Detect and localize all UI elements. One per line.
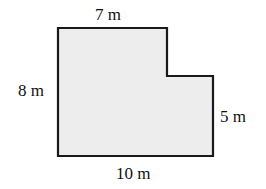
top-dimension-label: 7 m xyxy=(95,6,121,23)
l-shape-polygon xyxy=(58,28,213,156)
bottom-dimension-label: 10 m xyxy=(116,165,150,182)
left-dimension-label: 8 m xyxy=(18,82,44,99)
right-dimension-label: 5 m xyxy=(220,108,246,125)
